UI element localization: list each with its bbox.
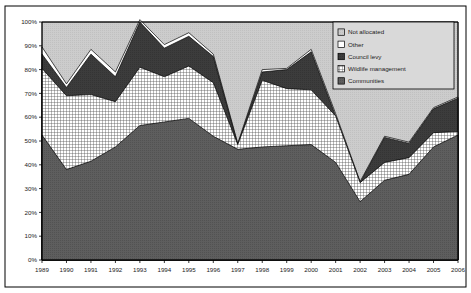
x-tick-label: 2002 (353, 266, 367, 273)
x-tick-label: 1992 (109, 266, 123, 273)
legend-label-communities: Communities (348, 77, 384, 84)
x-tick-label: 1990 (60, 266, 74, 273)
y-tick-label: 70% (25, 90, 38, 97)
x-tick-label: 1998 (255, 266, 269, 273)
legend-label-not-allocated: Not allocated (348, 28, 385, 35)
legend: Not allocatedOtherCouncil levyWildlife m… (333, 22, 454, 89)
x-tick-label: 1997 (231, 266, 245, 273)
legend-label-other: Other (348, 41, 363, 48)
x-tick-label: 1999 (280, 266, 294, 273)
y-tick-label: 30% (25, 185, 38, 192)
legend-swatch-communities[interactable] (338, 78, 344, 84)
x-tick-label: 2006 (451, 266, 465, 273)
x-tick-label: 1989 (35, 266, 49, 273)
x-tick-label: 2003 (378, 266, 392, 273)
legend-swatch-council-levy[interactable] (338, 53, 344, 59)
y-tick-label: 90% (25, 42, 38, 49)
y-tick-label: 10% (25, 232, 38, 239)
x-tick-label: 2005 (427, 266, 441, 273)
legend-label-council-levy: Council levy (348, 53, 382, 60)
x-tick-label: 1993 (133, 266, 147, 273)
y-tick-label: 100% (21, 18, 37, 25)
y-tick-label: 40% (25, 161, 38, 168)
legend-label-wildlife-management: Wildlife management (348, 65, 406, 72)
x-tick-label: 1996 (206, 266, 220, 273)
x-tick-label: 1995 (182, 266, 196, 273)
y-tick-label: 50% (25, 137, 38, 144)
x-tick-label: 2004 (402, 266, 416, 273)
chart-container: 0%10%20%30%40%50%60%70%80%90%100% 198919… (0, 0, 471, 293)
legend-swatch-other[interactable] (338, 41, 344, 47)
y-tick-label: 60% (25, 113, 38, 120)
legend-swatch-not-allocated[interactable] (338, 29, 344, 35)
x-tick-label: 2000 (304, 266, 318, 273)
y-tick-label: 80% (25, 66, 38, 73)
legend-swatch-wildlife-management[interactable] (338, 66, 344, 72)
x-tick-label: 1994 (157, 266, 171, 273)
y-tick-label: 0% (28, 256, 37, 263)
x-tick-label: 2001 (329, 266, 343, 273)
x-tick-label: 1991 (84, 266, 98, 273)
area-chart: 0%10%20%30%40%50%60%70%80%90%100% 198919… (0, 0, 471, 293)
y-tick-label: 20% (25, 209, 38, 216)
